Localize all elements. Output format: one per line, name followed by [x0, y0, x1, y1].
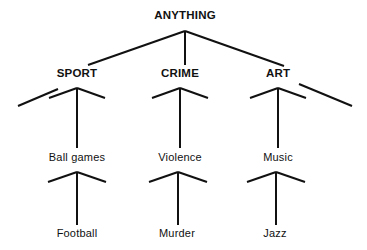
node-label-football: Football [57, 228, 98, 239]
edge-sport-left [49, 88, 77, 98]
node-label-murder: Murder [159, 228, 195, 239]
node-label-art: ART [266, 68, 290, 80]
edge-music-left [247, 172, 276, 182]
node-label-sport: SPORT [57, 68, 98, 80]
edge-crime-left [152, 88, 180, 98]
node-label-violence: Violence [158, 152, 202, 163]
edge-anything-left [88, 31, 185, 65]
edge-art-right [278, 88, 306, 98]
node-label-anything: ANYTHING [154, 10, 216, 22]
edge-violence-left [149, 172, 178, 182]
tree-edges-layer [0, 0, 367, 250]
edge-art-stub-right [299, 84, 352, 106]
node-label-music: Music [263, 152, 293, 163]
node-label-ball-games: Ball games [49, 152, 105, 163]
edge-ballgames-right [77, 172, 106, 182]
node-label-crime: CRIME [161, 68, 199, 80]
edge-sport-right [77, 88, 105, 98]
edge-ballgames-left [48, 172, 77, 182]
edge-art-left [250, 88, 278, 98]
edges-group [18, 31, 352, 225]
edge-music-right [276, 172, 305, 182]
hierarchy-diagram: ANYTHINGSPORTCRIMEARTBall gamesViolenceM… [0, 0, 367, 250]
node-label-jazz: Jazz [263, 228, 286, 239]
edge-crime-right [180, 88, 208, 98]
edge-anything-right [185, 31, 284, 66]
edge-violence-right [178, 172, 207, 182]
